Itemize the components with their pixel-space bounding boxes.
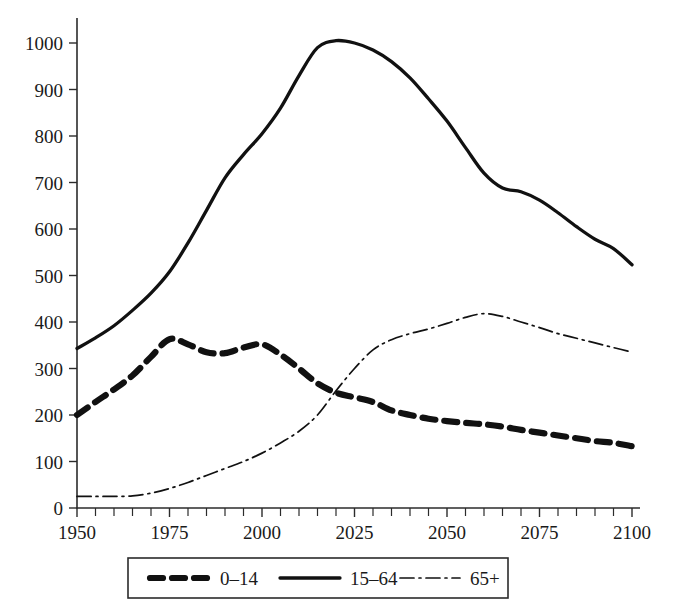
legend-label: 15–64 <box>350 568 398 589</box>
x-axis-tick-label: 2100 <box>613 522 651 543</box>
y-axis-tick-label: 900 <box>35 80 64 101</box>
y-axis-tick-label: 1000 <box>25 33 63 54</box>
series-line-65plus <box>77 314 632 497</box>
y-axis-tick-label: 200 <box>35 405 64 426</box>
series-lines <box>77 40 632 496</box>
y-axis-tick-label: 400 <box>35 312 64 333</box>
x-axis-tick-label: 2025 <box>336 522 374 543</box>
chart-canvas: 01002003004005006007008009001000 1950197… <box>0 0 673 606</box>
y-axis-tick-label: 0 <box>54 498 64 519</box>
y-axis-tick-label: 500 <box>35 266 64 287</box>
y-axis: 01002003004005006007008009001000 <box>25 18 77 519</box>
legend-label: 0–14 <box>220 568 259 589</box>
y-axis-tick-label: 600 <box>35 219 64 240</box>
x-axis-tick-label: 2000 <box>243 522 281 543</box>
x-axis-tick-label: 2075 <box>521 522 559 543</box>
series-line-0-14 <box>77 339 632 446</box>
x-axis-tick-label: 1950 <box>58 522 96 543</box>
x-axis-tick-label: 2050 <box>428 522 466 543</box>
y-axis-tick-label: 300 <box>35 359 64 380</box>
y-axis-tick-label: 700 <box>35 173 64 194</box>
y-axis-tick-label: 100 <box>35 452 64 473</box>
series-line-15-64 <box>77 40 632 348</box>
population-age-group-chart: 01002003004005006007008009001000 1950197… <box>0 0 673 606</box>
x-axis-tick-label: 1975 <box>151 522 189 543</box>
legend-label: 65+ <box>470 568 500 589</box>
x-axis: 1950197520002025205020752100 <box>58 508 651 543</box>
chart-legend: 0–1415–6465+ <box>128 558 508 598</box>
y-axis-tick-label: 800 <box>35 126 64 147</box>
